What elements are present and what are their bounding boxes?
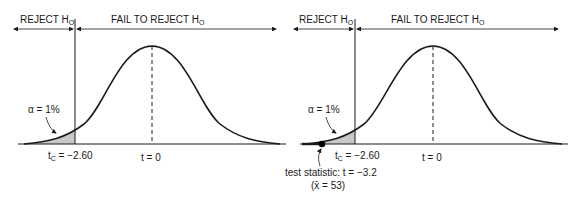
left-reject-text: REJECT H (20, 14, 69, 25)
left-center-label: t = 0 (141, 153, 161, 163)
right-reject-subscript: O (348, 19, 353, 26)
left-panel-graphics (14, 19, 286, 144)
right-alpha-pointer (326, 117, 336, 133)
sample-mean-label: (x̄ = 53) (311, 181, 345, 191)
test-statistic-pointer (319, 149, 321, 166)
right-alpha-label: α = 1% (308, 105, 340, 115)
left-reject-region-label: REJECT HO (20, 15, 74, 26)
test-statistic-label: test statistic: t = −3.2 (285, 168, 377, 178)
left-alpha-label: α = 1% (28, 105, 60, 115)
right-fail-text: FAIL TO REJECT H (391, 14, 479, 25)
right-critical-number: = −2.60 (343, 150, 380, 161)
right-reject-text: REJECT H (299, 14, 348, 25)
right-center-label: t = 0 (422, 153, 442, 163)
left-fail-region-label: FAIL TO REJECT HO (111, 15, 204, 26)
right-panel-graphics (294, 19, 568, 166)
left-critical-value-label: tC = −2.60 (48, 151, 93, 162)
left-fail-subscript: O (199, 19, 204, 26)
left-alpha-pointer (46, 117, 56, 133)
left-critical-number: = −2.60 (56, 150, 93, 161)
test-statistic-dot (319, 141, 326, 148)
right-rejection-area (305, 131, 355, 144)
left-rejection-area (24, 131, 75, 144)
left-fail-text: FAIL TO REJECT H (111, 14, 199, 25)
right-critical-value-label: tC = −2.60 (335, 151, 380, 162)
right-fail-subscript: O (479, 19, 484, 26)
right-fail-region-label: FAIL TO REJECT HO (391, 15, 484, 26)
right-reject-region-label: REJECT HO (299, 15, 353, 26)
left-reject-subscript: O (69, 19, 74, 26)
